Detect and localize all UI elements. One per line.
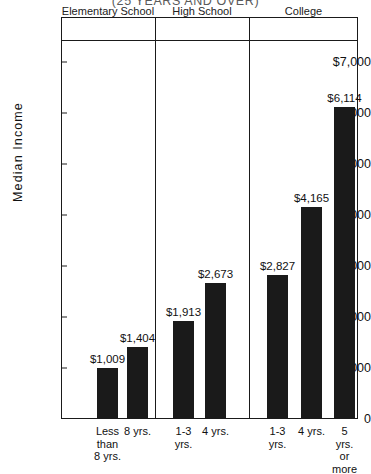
group-header-elementary-school: Elementary School — [61, 0, 155, 24]
y-tick-label-7000: $7,000 — [315, 55, 371, 69]
bar-college-1-3yrs — [267, 275, 288, 419]
category-label-college-1-3yrs: 1-3 yrs. — [269, 425, 287, 450]
group-divider-1 — [155, 17, 156, 419]
bar-value-college-4yrs: $4,165 — [294, 192, 329, 204]
bar-college-4yrs — [301, 207, 322, 419]
category-label-elementary-less-than-8yrs: Less than 8 yrs. — [94, 425, 121, 463]
y-axis-title: Median Income — [11, 72, 25, 232]
y-tick-mark-7000 — [61, 62, 67, 63]
category-label-college-4yrs: 4 yrs. — [298, 425, 325, 438]
y-tick-mark-5000 — [61, 164, 67, 165]
category-label-college-5yrs-or-more: 5 yrs. or more — [331, 425, 358, 474]
y-tick-mark-3000 — [61, 266, 67, 267]
y-tick-mark-6000 — [61, 113, 67, 114]
bar-college-5yrs-or-more — [334, 107, 355, 419]
bar-elementary-8yrs — [127, 347, 148, 419]
bar-highschool-1-3yrs — [173, 321, 194, 419]
bar-highschool-4yrs — [205, 283, 226, 419]
group-header-high-school: High School — [155, 0, 249, 24]
category-label-highschool-4yrs: 4 yrs. — [202, 425, 229, 438]
bar-value-highschool-4yrs: $2,673 — [198, 268, 233, 280]
category-label-elementary-8yrs: 8 yrs. — [124, 425, 151, 438]
y-tick-mark-1000 — [61, 368, 67, 369]
bar-value-elementary-8yrs: $1,404 — [120, 332, 155, 344]
bar-value-elementary-less-than-8yrs: $1,009 — [90, 353, 125, 365]
bar-value-highschool-1-3yrs: $1,913 — [166, 306, 201, 318]
y-tick-mark-2000 — [61, 317, 67, 318]
group-divider-2 — [249, 17, 250, 419]
bar-value-college-1-3yrs: $2,827 — [260, 260, 295, 272]
bar-value-college-5yrs-or-more: $6,114 — [327, 92, 361, 104]
y-tick-mark-4000 — [61, 215, 67, 216]
bar-elementary-less-than-8yrs — [97, 368, 118, 419]
category-label-highschool-1-3yrs: 1-3 yrs. — [175, 425, 193, 450]
group-header-college: College — [249, 0, 358, 24]
